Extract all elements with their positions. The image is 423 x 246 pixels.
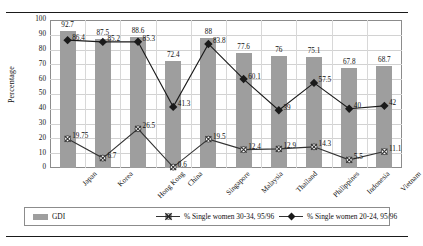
diamond-marker: [169, 103, 177, 111]
diamond-marker: [134, 38, 142, 46]
point-value-label: 60.1: [248, 74, 261, 81]
legend-item-gdi: GDI: [33, 212, 65, 221]
point-value-label: 0.6: [178, 162, 187, 169]
point-value-label: 11.1: [389, 146, 401, 153]
bar-swatch-icon: [33, 214, 48, 220]
line-path: [68, 129, 385, 167]
point-value-label: 83.8: [213, 38, 226, 45]
diamond-marker: [380, 102, 388, 110]
x-axis-category-label: China: [186, 170, 204, 188]
x-marker: [276, 146, 282, 152]
y-axis-tick-label: 70: [39, 61, 46, 68]
point-value-label: 12.9: [283, 143, 296, 150]
point-value-label: 5.5: [354, 154, 363, 161]
line-series-overlay: [50, 20, 402, 168]
x-marker: [135, 126, 141, 132]
x-axis-categories: JapanKoreaHong KongChinaSingaporeMalaysi…: [50, 170, 402, 208]
diamond-marker: [63, 36, 71, 44]
x-marker-icon: [156, 212, 180, 221]
point-value-label: 14.3: [319, 141, 332, 148]
x-axis-category-label: Korea: [116, 170, 134, 188]
point-value-label: 85.3: [143, 36, 156, 43]
y-axis-tick-label: 50: [39, 90, 46, 97]
x-marker: [65, 136, 71, 142]
legend-label-single-20-24: % Single women 20-24, 95/96: [307, 212, 397, 221]
x-axis-category-label: Malaysia: [260, 170, 285, 195]
x-axis-category-label: Hong Kong: [156, 170, 186, 200]
y-axis-tick-label: 10: [39, 150, 46, 157]
y-axis-tick-label: 80: [39, 46, 46, 53]
diamond-marker-icon: [279, 212, 303, 221]
x-axis-category-label: Indonesia: [366, 170, 392, 196]
x-marker: [381, 149, 387, 155]
point-value-label: 86.4: [72, 35, 85, 42]
x-axis-category-label: Singapore: [225, 170, 252, 197]
y-axis-title: Percentage: [7, 44, 16, 126]
point-value-label: 57.5: [319, 77, 332, 84]
y-axis-tick-label: 30: [39, 120, 46, 127]
x-axis-category-label: Thailand: [294, 170, 318, 194]
point-value-label: 12.4: [248, 144, 261, 151]
y-axis-tick-label: 60: [39, 76, 46, 83]
legend-label-gdi: GDI: [52, 212, 65, 221]
x-marker: [100, 155, 106, 161]
point-value-label: 85.2: [107, 36, 120, 43]
line-path: [68, 40, 385, 110]
x-axis-category-label: Vietnam: [400, 170, 423, 193]
plot-area: 92.787.588.672.48877.67675.167.868.7 19.…: [50, 20, 402, 168]
x-marker: [241, 147, 247, 153]
diamond-marker: [99, 38, 107, 46]
y-axis-tick-label: 40: [39, 105, 46, 112]
bottom-divider-rule: [6, 236, 408, 237]
x-axis-category-label: Philippines: [332, 170, 361, 199]
point-value-label: 26.5: [143, 123, 156, 130]
y-axis: Percentage 1009080706050403020100: [0, 20, 50, 168]
legend-item-single-20-24: % Single women 20-24, 95/96: [279, 212, 397, 221]
diamond-glyph: [287, 212, 296, 221]
x-marker: [346, 157, 352, 163]
y-axis-tick-label: 100: [35, 16, 46, 23]
legend-item-single-30-34: % Single women 30-34, 95/96: [156, 212, 274, 221]
point-value-label: 39: [283, 105, 290, 112]
legend-label-single-30-34: % Single women 30-34, 95/96: [184, 212, 274, 221]
x-glyph: [164, 212, 173, 221]
x-axis-category-label: Japan: [81, 170, 99, 188]
y-axis-tick-label: 90: [39, 31, 46, 38]
y-axis-tick-label: 20: [39, 135, 46, 142]
point-value-label: 6.7: [107, 153, 116, 160]
chart-legend: GDI % Single women 30-34, 95/96 % Single…: [24, 207, 390, 226]
x-marker: [205, 136, 211, 142]
top-divider-rule: [6, 12, 408, 13]
point-value-label: 19.5: [213, 134, 226, 141]
point-value-label: 19.75: [72, 133, 88, 140]
y-axis-tick-label: 0: [42, 164, 46, 171]
point-value-label: 40: [354, 103, 361, 110]
diamond-marker: [345, 105, 353, 113]
point-value-label: 41.3: [178, 101, 191, 108]
x-marker: [311, 144, 317, 150]
point-value-label: 42: [389, 100, 396, 107]
